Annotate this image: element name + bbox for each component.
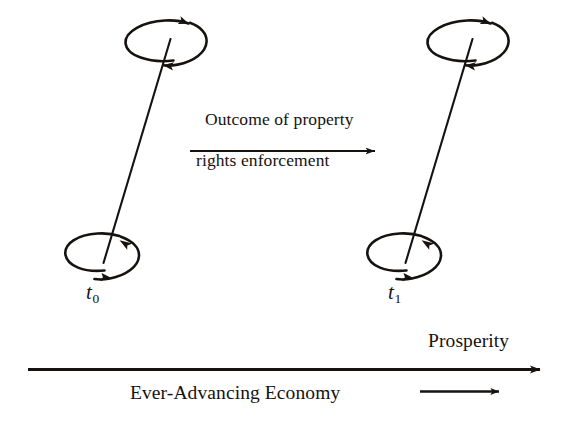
prosperity-axis-label: Prosperity — [428, 329, 509, 352]
time-label-t1: t1 — [388, 280, 401, 307]
time-label-t0: t0 — [86, 280, 99, 307]
spinning-top-t1 — [367, 20, 508, 281]
time-label-t0-subscript: 0 — [92, 291, 99, 306]
transition-caption-line1: Outcome of property — [205, 109, 354, 129]
axle-line-t0 — [104, 39, 171, 263]
economy-axis-label: Ever-Advancing Economy — [130, 381, 340, 404]
precession-ellipse-top-t0 — [125, 20, 206, 65]
diagram-canvas — [0, 0, 563, 427]
time-label-t1-subscript: 1 — [394, 291, 401, 306]
transition-caption-line2: rights enforcement — [196, 150, 354, 171]
spinning-top-t0 — [65, 20, 206, 281]
precession-ellipse-bottom-t1 — [367, 233, 441, 281]
axle-line-t1 — [406, 39, 473, 263]
precession-ellipse-bottom-t0 — [65, 233, 139, 281]
precession-ellipse-top-t1 — [427, 20, 508, 65]
transition-caption: Outcome of property rights enforcement — [196, 88, 354, 191]
